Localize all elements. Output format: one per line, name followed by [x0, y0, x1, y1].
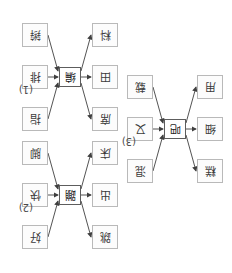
diagram-2-label: (2) — [19, 202, 33, 213]
worksheet-page: 席 田 料 指 排 辫 编 (1) — [0, 0, 232, 273]
diagram-2-out-middle-left[interactable]: 出 — [92, 183, 118, 207]
diagram-3-out-bottom-left[interactable]: 用 — [197, 75, 223, 99]
diagram-2-out-bottom-left[interactable]: 床 — [92, 141, 118, 165]
diagram-1-in-bottom-right[interactable]: 辫 — [22, 23, 48, 47]
diagram-2-center[interactable]: 蹦 — [59, 185, 81, 205]
diagram-1-in-top-right[interactable]: 指 — [22, 107, 48, 131]
diagram-2-out-top-left[interactable]: 跳 — [92, 225, 118, 249]
diagram-group-2: 跳 出 床 好 快 脚 蹦 — [20, 139, 120, 251]
diagram-2-in-bottom-right[interactable]: 脚 — [22, 141, 48, 165]
diagram-2-in-top-right[interactable]: 好 — [22, 225, 48, 249]
diagram-3-out-top-left[interactable]: 糕 — [197, 159, 223, 183]
diagram-3-label: (3) — [122, 136, 136, 147]
diagram-1-center[interactable]: 编 — [59, 67, 81, 87]
diagram-1-out-middle-left[interactable]: 田 — [92, 65, 118, 89]
diagram-3-center[interactable]: 吧 — [164, 119, 186, 139]
diagram-3-in-top-right[interactable]: 混 — [127, 159, 153, 183]
diagram-sheet: 席 田 料 指 排 辫 编 (1) — [0, 0, 232, 273]
diagram-3-in-bottom-right[interactable]: 载 — [127, 75, 153, 99]
diagram-1-out-bottom-left[interactable]: 料 — [92, 23, 118, 47]
diagram-1-label: (1) — [19, 84, 33, 95]
diagram-group-1: 席 田 料 指 排 辫 编 — [20, 21, 120, 133]
diagram-group-3: 糕 细 用 混 又 载 吧 — [125, 73, 225, 185]
diagram-1-out-top-left[interactable]: 席 — [92, 107, 118, 131]
diagram-3-out-middle-left[interactable]: 细 — [197, 117, 223, 141]
